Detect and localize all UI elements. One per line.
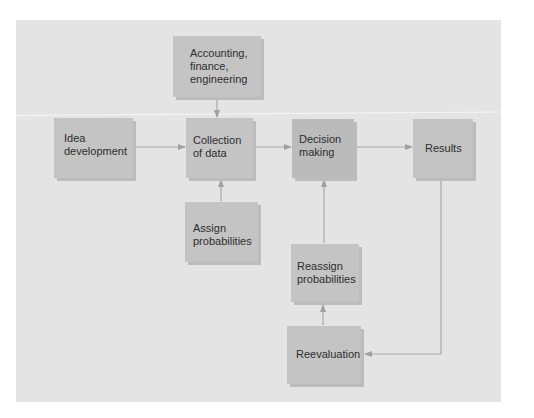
node-collection-of-data: Collection of data (186, 118, 253, 178)
node-reevaluation: Reevaluation (287, 326, 361, 384)
node-label: Reevaluation (296, 348, 360, 361)
node-label: Reassign probabilities (297, 260, 356, 286)
node-accounting-finance-engineering: Accounting, finance, engineering (173, 36, 261, 97)
connectors (0, 0, 534, 418)
node-label: Assign probabilities (193, 222, 252, 248)
node-label: Accounting, finance, engineering (190, 47, 248, 86)
node-reassign-probabilities: Reassign probabilities (291, 244, 359, 302)
node-decision-making: Decision making (292, 119, 354, 178)
arrow-results-to-reevaluation (365, 180, 441, 354)
node-label: Decision making (299, 133, 341, 159)
node-assign-probabilities: Assign probabilities (185, 202, 258, 262)
node-label: Collection of data (193, 134, 241, 160)
node-label: Results (425, 142, 462, 155)
node-label: Idea development (64, 132, 127, 158)
node-idea-development: Idea development (54, 118, 133, 178)
node-results: Results (413, 119, 473, 178)
